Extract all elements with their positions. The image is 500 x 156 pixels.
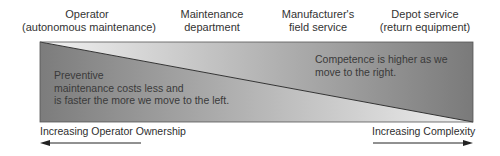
left-arrowhead-icon [40, 140, 50, 146]
right-arrowhead-icon [463, 140, 473, 146]
note-preventive-maintenance: Preventive maintenance costs less and is… [54, 69, 229, 107]
column-label-maintenance-department: Maintenance department [162, 8, 262, 34]
column-label-depot-service: Depot service (return equipment) [370, 8, 480, 34]
column-label-manufacturer-field-service: Manufacturer's field service [268, 8, 368, 34]
axis-label-complexity: Increasing Complexity [372, 125, 475, 137]
note-competence: Competence is higher as we move to the r… [315, 53, 448, 78]
column-label-operator: Operator (autonomous maintenance) [22, 8, 152, 34]
axis-label-operator-ownership: Increasing Operator Ownership [40, 125, 186, 137]
